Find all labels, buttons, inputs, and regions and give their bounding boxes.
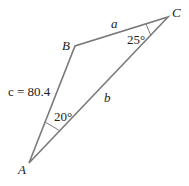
angle-label-c: 25° — [127, 32, 145, 47]
side-label-a: a — [111, 16, 118, 31]
triangle-diagram: A B C a b c = 80.4 20° 25° — [0, 0, 189, 186]
angle-arc-c — [146, 24, 151, 36]
vertex-label-a: A — [17, 162, 26, 177]
side-label-c: c = 80.4 — [8, 84, 51, 99]
vertex-label-b: B — [62, 38, 70, 53]
side-label-b: b — [104, 90, 111, 105]
vertex-label-c: C — [172, 5, 181, 20]
angle-label-a: 20° — [54, 109, 72, 124]
